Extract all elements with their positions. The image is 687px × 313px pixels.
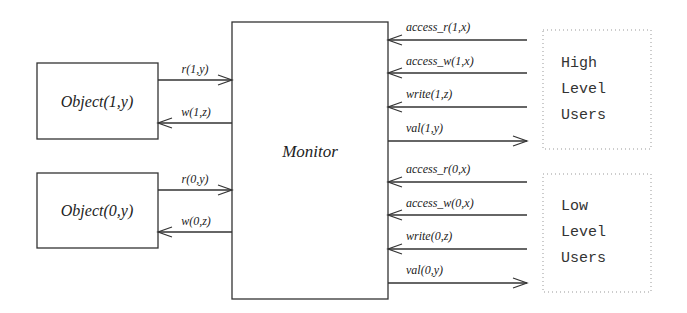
high-users-line-2: Level (561, 81, 606, 98)
low-level-users-node: Low Level Users (543, 174, 651, 292)
low-users-line-2: Level (561, 224, 606, 241)
low-users-line-1: Low (561, 198, 588, 215)
low-users-line-3: Users (561, 250, 606, 267)
write-label-object-0: w(0,z) (181, 214, 211, 228)
high-level-users-node: High Level Users (543, 30, 651, 149)
signal-access-w-0: access_w(0,x) (388, 196, 527, 220)
signal-access-r-0: access_r(0,x) (388, 162, 527, 187)
signal-label: val(1,y) (406, 121, 443, 135)
monitor-label: Monitor (281, 142, 338, 161)
signal-label: write(0,z) (406, 229, 452, 243)
write-arrow-object-0: w(0,z) (158, 214, 232, 237)
signal-label: access_r(1,x) (406, 20, 470, 34)
write-arrow-object-1: w(1,z) (158, 105, 232, 128)
object-0-label: Object(0,y) (61, 202, 133, 220)
read-label-object-1: r(1,y) (182, 62, 209, 76)
high-users-line-1: High (561, 55, 597, 72)
signal-label: write(1,z) (406, 87, 452, 101)
high-users-line-3: Users (561, 107, 606, 124)
signal-access-w-1: access_w(1,x) (388, 54, 527, 78)
read-arrow-object-0: r(0,y) (158, 172, 232, 195)
signal-write-1: write(1,z) (388, 87, 527, 112)
write-label-object-1: w(1,z) (181, 105, 211, 119)
object-1-node: Object(1,y) (37, 63, 158, 139)
read-label-object-0: r(0,y) (182, 172, 209, 186)
signal-label: access_w(1,x) (406, 54, 474, 68)
signal-label: val(0,y) (406, 263, 443, 277)
monitor-node: Monitor (232, 22, 388, 299)
read-arrow-object-1: r(1,y) (158, 62, 232, 85)
object-1-label: Object(1,y) (61, 93, 133, 111)
signal-val-0: val(0,y) (388, 263, 527, 288)
signal-val-1: val(1,y) (388, 121, 527, 146)
signal-access-r-1: access_r(1,x) (388, 20, 527, 45)
monitor-diagram: Monitor Object(1,y) r(1,y) w(1,z) Object… (0, 0, 687, 313)
signal-label: access_r(0,x) (406, 162, 470, 176)
signal-write-0: write(0,z) (388, 229, 527, 254)
signal-label: access_w(0,x) (406, 196, 474, 210)
object-0-node: Object(0,y) (37, 173, 158, 248)
